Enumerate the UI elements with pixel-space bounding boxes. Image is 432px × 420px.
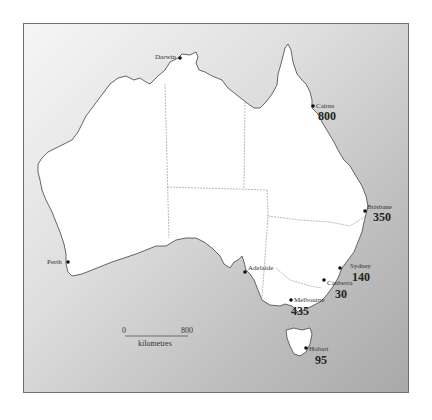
city-value-hobart: 95: [315, 353, 327, 367]
scale-bar-end-label: 800: [181, 326, 193, 335]
city-dot-sydney[interactable]: [338, 266, 342, 270]
city-dot-perth[interactable]: [66, 260, 70, 264]
city-value-melbourne: 435: [291, 304, 309, 318]
city-value-canberra: 30: [335, 287, 347, 301]
scale-bar-unit-label: kilometres: [138, 339, 172, 348]
city-value-sydney: 140: [352, 270, 370, 284]
city-dot-melbourne[interactable]: [289, 298, 293, 302]
city-label-sydney: Sydney: [350, 262, 372, 270]
city-label-melbourne: Melbourne: [294, 296, 325, 304]
city-dot-hobart[interactable]: [304, 346, 308, 350]
city-value-brisbane: 350: [373, 210, 391, 224]
australia-map: Darwin Cairns 800 Brisbane 350 Sydney 14…: [0, 0, 432, 420]
scale-bar-start-label: 0: [122, 326, 126, 335]
city-dot-canberra[interactable]: [322, 278, 326, 282]
city-label-hobart: Hobart: [309, 345, 328, 353]
city-dot-darwin[interactable]: [178, 56, 182, 60]
city-label-canberra: Canberra: [327, 279, 354, 287]
city-dot-cairns[interactable]: [311, 104, 315, 108]
mainland-australia: [38, 44, 368, 312]
city-label-perth: Perth: [47, 258, 62, 266]
city-dot-adelaide[interactable]: [243, 270, 247, 274]
city-label-darwin: Darwin: [155, 53, 176, 61]
city-value-cairns: 800: [318, 109, 336, 123]
city-label-adelaide: Adelaide: [248, 264, 273, 272]
